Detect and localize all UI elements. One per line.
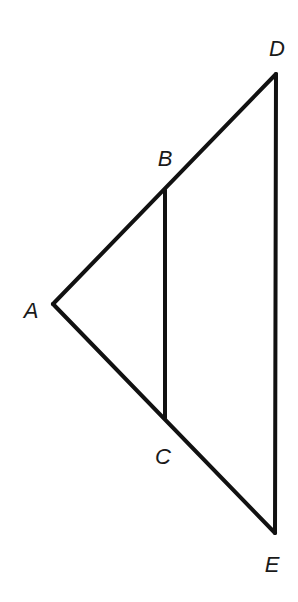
- label-D: D: [269, 36, 285, 61]
- geometry-diagram: A B C D E: [0, 0, 298, 602]
- label-E: E: [265, 552, 280, 577]
- label-A: A: [22, 298, 39, 323]
- label-C: C: [155, 444, 171, 469]
- label-B: B: [158, 146, 173, 171]
- segment-DE: [275, 74, 276, 533]
